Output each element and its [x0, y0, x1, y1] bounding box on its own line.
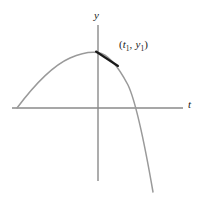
label-y-subscript: 1: [140, 44, 144, 53]
tangent-segment: [96, 52, 118, 67]
tangent-line-figure: y t (t1, y1): [0, 0, 201, 199]
y-axis-label: y: [94, 10, 99, 21]
label-t-subscript: 1: [126, 44, 130, 53]
label-close-paren: ): [144, 38, 148, 50]
figure-canvas: [0, 0, 201, 199]
parabola-curve: [17, 52, 153, 192]
label-comma: ,: [129, 38, 132, 50]
t-axis-label: t: [188, 99, 191, 110]
point-coordinate-label: (t1, y1): [119, 39, 148, 50]
